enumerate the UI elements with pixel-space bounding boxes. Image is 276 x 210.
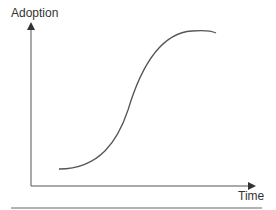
s-curve-diagram bbox=[0, 0, 276, 210]
x-axis-label: Time bbox=[238, 189, 264, 203]
y-axis-label: Adoption bbox=[11, 6, 58, 20]
adoption-curve bbox=[59, 31, 216, 169]
